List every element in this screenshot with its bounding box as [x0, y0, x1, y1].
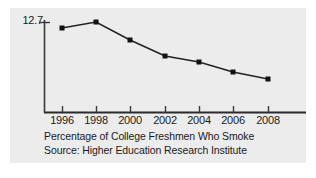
- x-axis-tick-label: 1996: [45, 114, 79, 126]
- data-point: [128, 38, 133, 43]
- data-markers: [60, 20, 271, 82]
- x-axis-tick-label: 2002: [148, 114, 182, 126]
- data-point: [266, 77, 271, 82]
- data-line: [62, 22, 268, 79]
- chart-source: Source: Higher Education Research Instit…: [44, 144, 247, 156]
- chart-title: Percentage of College Freshmen Who Smoke: [44, 130, 254, 142]
- x-axis-tick-label: 1998: [79, 114, 113, 126]
- data-point: [231, 70, 236, 75]
- x-axis-tick-label: 2000: [113, 114, 147, 126]
- axis-lines: [39, 20, 306, 113]
- x-axis-ticks: [63, 106, 269, 112]
- data-point: [60, 26, 65, 31]
- data-point: [197, 60, 202, 65]
- data-point: [94, 20, 99, 25]
- chart-figure: 12.7 1996 1998 2000 2002 200: [0, 0, 316, 178]
- data-point: [163, 54, 168, 59]
- x-axis-tick-label: 2006: [216, 114, 250, 126]
- x-axis-tick-label: 2004: [182, 114, 216, 126]
- x-axis-tick-label: 2008: [251, 114, 285, 126]
